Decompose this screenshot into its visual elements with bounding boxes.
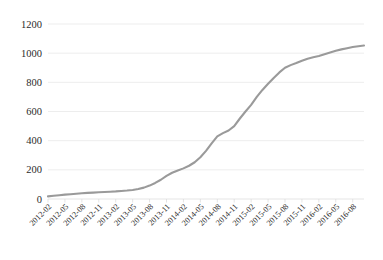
y-axis-tick-label: 400 bbox=[26, 135, 42, 146]
line-series-cumulative bbox=[48, 46, 364, 197]
x-axis-tick-marks bbox=[48, 199, 353, 203]
chart-canvas: 020040060080010001200 2012-022012-052012… bbox=[0, 0, 383, 260]
y-axis-tick-label: 200 bbox=[26, 164, 42, 175]
y-axis-tick-label: 0 bbox=[37, 194, 42, 205]
gridlines bbox=[48, 24, 364, 199]
y-axis-tick-label: 1000 bbox=[21, 48, 42, 59]
x-axis-tick-labels: 2012-022012-052012-082012-112013-022013-… bbox=[28, 202, 358, 228]
y-axis-tick-label: 600 bbox=[26, 106, 42, 117]
y-axis-tick-label: 1200 bbox=[21, 19, 42, 30]
line-chart-figure: 020040060080010001200 2012-022012-052012… bbox=[0, 0, 383, 260]
y-axis-tick-labels: 020040060080010001200 bbox=[21, 19, 42, 205]
y-axis-tick-label: 800 bbox=[26, 77, 42, 88]
data-series-group bbox=[48, 46, 364, 197]
